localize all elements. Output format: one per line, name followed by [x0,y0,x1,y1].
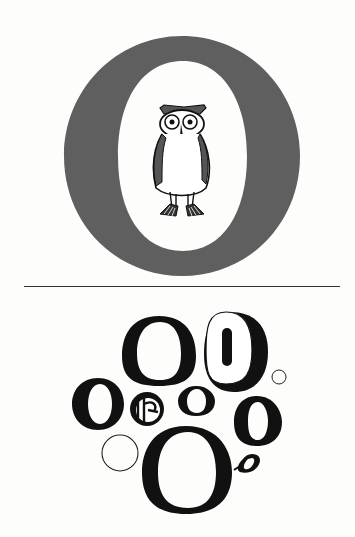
letter-o-collection [0,300,355,537]
letter-o-serif-small [178,386,215,416]
outline-circle-large [102,435,138,471]
letter-o-serif-huge [142,426,232,514]
letter-o-italic-small [234,454,260,473]
letter-o-serif-large [122,316,196,386]
letter-zero-slab-shadowed [204,312,268,392]
letter-o-bold-serif [234,396,282,446]
top-panel [0,0,355,290]
divider-rule [24,286,340,287]
letter-o-condensed-bold [72,378,124,430]
bottom-panel [0,300,355,537]
letter-o-gothic [130,392,164,426]
owl-icon [148,102,216,222]
outline-circle-small [272,370,286,384]
